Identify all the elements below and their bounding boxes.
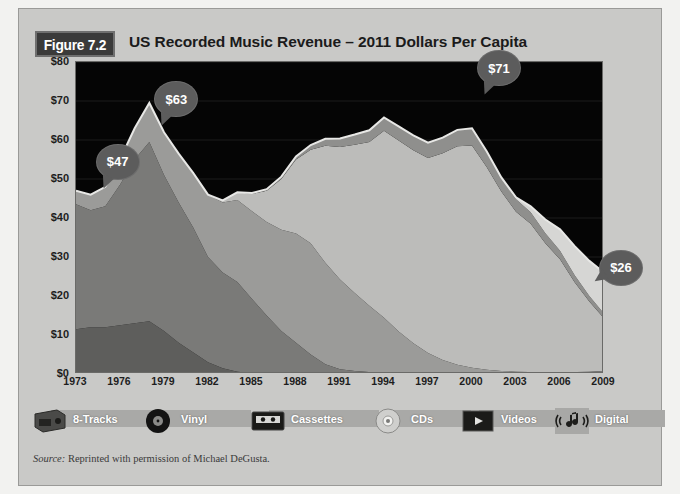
source-label: Source: (33, 453, 65, 464)
video-screen-icon (461, 408, 495, 434)
source-note: Source: Reprinted with permission of Mic… (33, 453, 270, 464)
figure-card: Figure 7.2 US Recorded Music Revenue – 2… (18, 8, 662, 486)
x-axis-tick-label: 2009 (591, 375, 614, 387)
y-axis-tick-label: $60 (51, 133, 69, 145)
page-title: US Recorded Music Revenue – 2011 Dollars… (129, 33, 527, 51)
y-axis-tick-label: $40 (51, 211, 69, 223)
x-axis-tick-label: 1991 (327, 375, 350, 387)
legend-item-digital[interactable]: Digital (555, 401, 589, 441)
y-axis-tick-label: $10 (51, 328, 69, 340)
x-axis-tick-label: 1997 (415, 375, 438, 387)
source-text: Reprinted with permission of Michael DeG… (65, 453, 269, 464)
stacked-area-chart (76, 62, 603, 373)
x-axis: 1973197619791982198519881991199419972000… (75, 375, 603, 393)
legend-bar: Cassettes (269, 410, 379, 427)
figure-number-badge: Figure 7.2 (35, 31, 115, 57)
value-callout: $71 (477, 50, 521, 86)
legend-item-cds[interactable]: CDs (371, 401, 405, 441)
y-axis: $0$10$20$30$40$50$60$70$80 (19, 61, 73, 373)
plot-frame (75, 61, 603, 373)
legend-item-vinyl[interactable]: Vinyl (141, 401, 175, 441)
value-callout: $26 (599, 250, 643, 286)
y-axis-tick-label: $50 (51, 172, 69, 184)
value-callout: $47 (96, 144, 140, 180)
chart-legend: 8-TracksVinylCassettesCDsVideosDigital (33, 401, 649, 441)
x-axis-tick-label: 1994 (371, 375, 394, 387)
x-axis-tick-label: 1988 (283, 375, 306, 387)
y-axis-tick-label: $70 (51, 94, 69, 106)
music-note-waves-icon (555, 408, 589, 434)
legend-item-8-tracks[interactable]: 8-Tracks (33, 401, 67, 441)
x-axis-tick-label: 1979 (151, 375, 174, 387)
compact-disc-icon (371, 408, 405, 434)
y-axis-tick-label: $30 (51, 250, 69, 262)
x-axis-tick-label: 1973 (63, 375, 86, 387)
x-axis-tick-label: 1976 (107, 375, 130, 387)
x-axis-tick-label: 2000 (459, 375, 482, 387)
legend-item-cassettes[interactable]: Cassettes (251, 401, 285, 441)
x-axis-tick-label: 2006 (547, 375, 570, 387)
eight-track-cartridge-icon (33, 408, 67, 434)
legend-item-videos[interactable]: Videos (461, 401, 495, 441)
x-axis-tick-label: 1982 (195, 375, 218, 387)
cassette-tape-icon (251, 408, 285, 434)
x-axis-tick-label: 2003 (503, 375, 526, 387)
figure-number-label: Figure 7.2 (44, 36, 106, 53)
x-axis-tick-label: 1985 (239, 375, 262, 387)
vinyl-record-icon (141, 408, 175, 434)
y-axis-tick-label: $80 (51, 55, 69, 67)
y-axis-tick-label: $20 (51, 289, 69, 301)
plot-area: $47$63$71$26 (75, 61, 603, 373)
